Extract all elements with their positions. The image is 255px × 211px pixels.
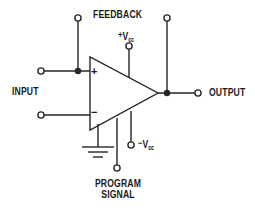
vcc-positive-label: +Vcc bbox=[118, 31, 134, 42]
vcc-negative-sign: − bbox=[138, 138, 142, 148]
noninverting-input-marker: + bbox=[91, 65, 97, 77]
vcc-negative-subscript: cc bbox=[148, 144, 154, 151]
vcc-negative-label: −Vcc bbox=[138, 139, 154, 150]
output-label: OUTPUT bbox=[209, 87, 245, 98]
opamp-triangle bbox=[90, 57, 158, 130]
output-branch-terminal[interactable] bbox=[164, 15, 170, 21]
input-label: INPUT bbox=[12, 86, 39, 97]
input-noninverting-terminal[interactable] bbox=[38, 68, 44, 74]
feedback-label: FEEDBACK bbox=[93, 9, 142, 20]
output-terminal[interactable] bbox=[195, 90, 201, 96]
vcc-positive-terminal[interactable] bbox=[126, 43, 132, 49]
inverting-input-marker: − bbox=[91, 106, 97, 118]
program-signal-terminal[interactable] bbox=[114, 165, 120, 171]
program-signal-label: PROGRAM SIGNAL bbox=[93, 178, 142, 201]
program-signal-line-2: SIGNAL bbox=[93, 189, 142, 200]
vcc-negative-terminal[interactable] bbox=[128, 142, 134, 148]
vcc-positive-subscript: cc bbox=[128, 36, 134, 43]
feedback-input-junction bbox=[75, 68, 81, 74]
input-inverting-terminal[interactable] bbox=[38, 112, 44, 118]
circuit-diagram-canvas: + − FEEDBACK INPUT OUTPUT PROGRAM SIGNAL… bbox=[0, 0, 255, 211]
vcc-positive-sign: + bbox=[118, 30, 122, 40]
output-junction bbox=[164, 90, 170, 96]
feedback-top-terminal[interactable] bbox=[75, 15, 81, 21]
